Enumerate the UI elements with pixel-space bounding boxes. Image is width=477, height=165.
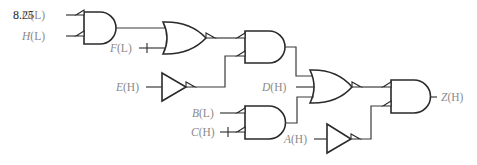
wire-and2-to-or2 [285, 47, 314, 76]
input-label-h: H(L) [21, 30, 45, 43]
active-low-indicator-h [76, 31, 84, 36]
active-low-indicator-or2-out [352, 82, 361, 87]
output-label-z: Z(H) [441, 91, 464, 104]
input-label-d: D(H) [261, 81, 286, 94]
input-label-e: E(H) [115, 81, 139, 94]
active-low-indicator-c [237, 127, 245, 132]
active-low-indicator-or1-out [206, 33, 215, 38]
and-gate-2 [237, 31, 285, 63]
wire-bufa-to-and3 [360, 106, 383, 139]
active-low-indicator-buf-e [186, 82, 195, 87]
or-gate-1 [163, 22, 215, 54]
active-low-indicator-and3-b [383, 101, 391, 106]
and-gate-3 [383, 80, 431, 113]
active-low-indicator-and3-a [383, 82, 391, 87]
and-gate-4 [237, 106, 286, 139]
wire-and4-to-or2 [285, 97, 314, 123]
wire-bufe-to-and2 [195, 56, 237, 87]
or-gate-2 [310, 70, 361, 103]
active-low-indicator-b [237, 108, 245, 113]
active-low-indicator-g [76, 10, 84, 15]
input-label-f: F(L) [109, 42, 132, 55]
logic-circuit-diagram: 8.25 G(L) H(L) F(L) E(H) D(H) [0, 0, 477, 165]
active-low-indicator-and2-a [237, 33, 245, 38]
active-low-indicator-and2-b [237, 51, 245, 56]
input-label-a: A(H) [283, 133, 307, 146]
buffer-e [162, 73, 195, 101]
input-label-c: C(H) [191, 126, 215, 139]
active-low-indicator-buf-a [351, 134, 360, 139]
and-gate-1 [76, 10, 116, 44]
input-label-g: G(L) [22, 9, 45, 22]
buffer-a [327, 124, 360, 153]
input-label-b: B(L) [192, 107, 214, 120]
